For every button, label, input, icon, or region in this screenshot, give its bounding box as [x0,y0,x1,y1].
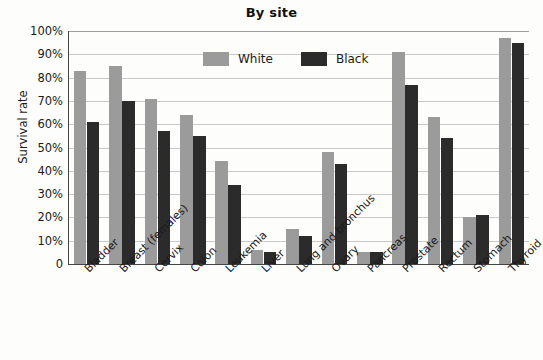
bar-group [69,31,104,264]
bar-group [387,31,422,264]
legend-swatch-black [301,52,327,66]
y-axis-tick-label: 90% [37,47,63,61]
y-axis-tick-label: 60% [37,117,63,131]
chart-title: By site [0,5,543,20]
legend-label: Black [336,52,368,66]
bar [441,138,454,264]
y-axis-tick-label: 50% [37,141,63,155]
bar [512,43,525,264]
legend-entry: Black [301,52,368,66]
y-axis-tick-label: 80% [37,71,63,85]
x-axis-tick-labels: BladderBreast (females)CervixColonLeukem… [68,266,538,360]
legend-entry: White [203,52,273,66]
bar [499,38,512,264]
y-axis-tick-label: 40% [37,164,63,178]
bar [193,136,206,264]
bar [180,115,193,264]
bar-group [104,31,139,264]
y-axis-tick-label: 0 [56,257,63,271]
bar [158,131,171,264]
bar-group [458,31,493,264]
chart-container: By site Survival rate 010%20%30%40%50%60… [0,0,543,360]
y-axis-tick-label: 70% [37,94,63,108]
bar [109,66,122,264]
y-axis-tick-label: 100% [30,24,63,38]
bar-group [423,31,458,264]
plot-area: 010%20%30%40%50%60%70%80%90%100% [68,31,529,265]
chart-legend: WhiteBlack [203,52,368,66]
y-axis-title: Survival rate [16,57,30,197]
y-axis-tick-label: 10% [37,234,63,248]
legend-label: White [238,52,273,66]
y-axis-tick-label: 20% [37,210,63,224]
legend-swatch-white [203,52,229,66]
y-axis-tick-label: 30% [37,187,63,201]
bar [74,71,87,264]
bar [286,229,299,264]
bar [215,161,228,264]
bar [405,85,418,264]
bar [122,101,135,264]
bar-group [494,31,529,264]
bar [87,122,100,264]
